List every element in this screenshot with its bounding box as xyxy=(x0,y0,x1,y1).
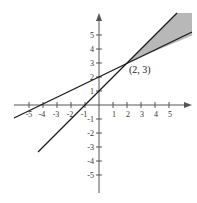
svg-text:-4: -4 xyxy=(87,157,94,166)
svg-text:-1: -1 xyxy=(81,110,88,119)
shaded-region xyxy=(127,13,192,63)
svg-text:5: 5 xyxy=(90,31,94,40)
svg-text:1: 1 xyxy=(112,110,116,119)
line-y-x-plus-1 xyxy=(38,13,177,152)
svg-text:-1: -1 xyxy=(87,115,94,124)
intersection-label: (2, 3) xyxy=(129,64,151,76)
svg-text:5: 5 xyxy=(168,110,172,119)
svg-text:3: 3 xyxy=(90,59,94,68)
svg-text:-4: -4 xyxy=(39,110,46,119)
svg-text:4: 4 xyxy=(154,110,158,119)
svg-text:4: 4 xyxy=(90,45,94,54)
x-axis-arrow-icon xyxy=(184,102,192,108)
svg-text:-3: -3 xyxy=(53,110,60,119)
svg-text:1: 1 xyxy=(90,87,94,96)
svg-text:3: 3 xyxy=(140,110,144,119)
coordinate-plane: -5 -4 -3 -2 -1 1 2 3 4 5 5 4 3 2 1 -1 -2… xyxy=(0,0,197,203)
svg-text:-3: -3 xyxy=(87,143,94,152)
svg-text:-2: -2 xyxy=(87,129,94,138)
svg-text:-5: -5 xyxy=(87,171,94,180)
y-axis-arrow-icon xyxy=(96,13,102,21)
svg-text:2: 2 xyxy=(126,110,130,119)
